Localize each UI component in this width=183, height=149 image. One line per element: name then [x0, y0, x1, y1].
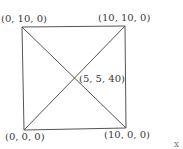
pyramid-diagram: (0, 10, 0) (10, 10, 0) (5, 5, 40) (0, 0,… — [0, 0, 183, 149]
vertex-label-top-right: (10, 10, 0) — [98, 12, 150, 23]
edge-left — [22, 27, 24, 130]
vertex-label-bottom-right: (10, 0, 0) — [104, 129, 150, 140]
vertex-label-bottom-left: (0, 0, 0) — [5, 131, 45, 142]
vertex-label-top-left: (0, 10, 0) — [1, 13, 47, 24]
vertex-label-apex: (5, 5, 40) — [79, 73, 125, 84]
axis-label-partial: x — [174, 139, 179, 149]
edge-top — [22, 26, 125, 27]
edge-right — [125, 26, 126, 128]
